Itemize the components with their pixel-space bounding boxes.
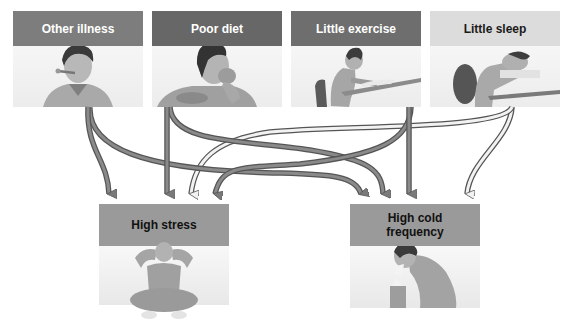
causal-arrows	[0, 0, 575, 332]
stressed-person-illustration	[99, 246, 229, 305]
sneezing-person-illustration	[350, 246, 480, 308]
effect-label: High stress	[131, 218, 196, 232]
effect-panel-high-stress: High stress	[99, 204, 229, 305]
effect-header-high-cold-frequency: High cold frequency	[350, 204, 480, 246]
effect-header-high-stress: High stress	[99, 204, 229, 246]
effect-label: High cold frequency	[386, 211, 443, 239]
effect-panel-high-cold-frequency: High cold frequency	[350, 204, 480, 308]
